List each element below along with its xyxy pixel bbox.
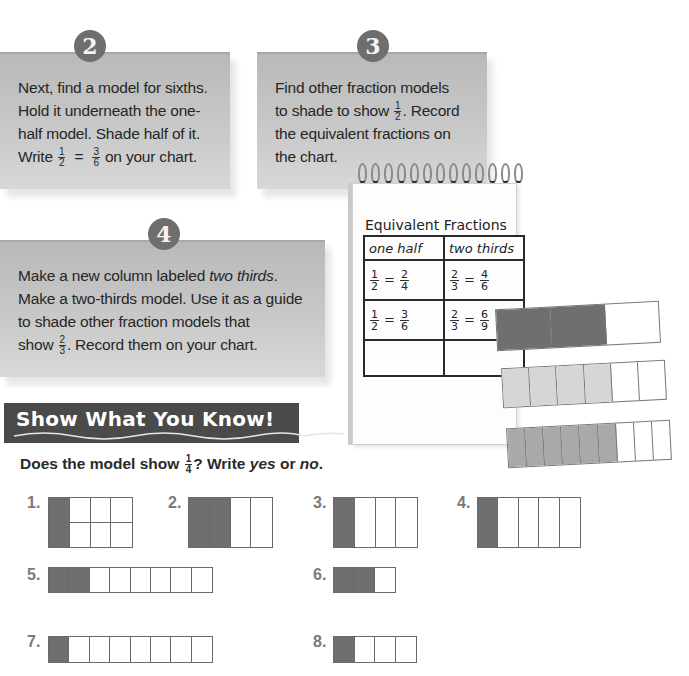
fraction: 46 — [480, 269, 489, 292]
model-cell-shaded — [49, 523, 70, 548]
fraction-three-sixths: 36 — [92, 147, 99, 168]
denominator: 3 — [60, 346, 65, 356]
question-7-model — [48, 636, 213, 663]
model-cell-shaded — [69, 568, 89, 592]
step-3-line-2: to shade to show 12. Record — [275, 99, 477, 122]
fraction: 12 — [370, 269, 379, 292]
table-row: 12=24 23=46 — [364, 260, 524, 300]
step-3-line-1: Find other fraction models — [275, 76, 477, 99]
strip-cell-shaded — [525, 427, 545, 466]
strip-cell-shaded — [543, 426, 563, 465]
ring — [449, 163, 458, 183]
italic-text: two thirds — [209, 267, 273, 284]
text: . Record — [402, 102, 459, 119]
model-cell-shaded — [334, 568, 354, 592]
question-2-label: 2. — [168, 494, 181, 512]
text: ? Write — [193, 455, 250, 472]
text: to shade to show — [275, 102, 389, 119]
question-4-label: 4. — [457, 494, 470, 512]
model-cell-shaded — [354, 568, 374, 592]
model-cell — [110, 637, 130, 662]
question-8-label: 8. — [313, 633, 326, 651]
denominator: 3 — [451, 321, 458, 332]
question-2-model — [188, 497, 273, 548]
model-cell — [91, 523, 112, 548]
strip-cell-shaded — [496, 307, 552, 350]
denominator: 6 — [401, 321, 408, 332]
text: . Record them on your chart. — [67, 336, 258, 353]
strip-cell — [652, 421, 671, 460]
question-1-model — [48, 497, 133, 548]
strip-cell — [634, 422, 654, 461]
strip-cell-shaded — [502, 368, 531, 407]
step-4-badge: 4 — [148, 218, 180, 250]
ring — [475, 163, 484, 183]
question-3-model — [333, 497, 418, 548]
model-cell — [539, 498, 559, 547]
numerator: 2 — [450, 309, 459, 321]
model-cell — [498, 498, 518, 547]
header-one-half: one half — [364, 236, 444, 260]
model-cell — [91, 498, 112, 523]
model-thirds — [495, 301, 661, 352]
strip-cell-shaded — [556, 365, 585, 404]
model-cell — [355, 498, 376, 547]
model-cell — [151, 637, 171, 662]
model-cell — [519, 498, 539, 547]
ring — [423, 163, 432, 183]
ring — [488, 163, 497, 183]
table-header-row: one half two thirds — [364, 236, 524, 260]
equals-sign: = — [464, 272, 475, 287]
equals-sign: = — [464, 312, 475, 327]
text: or — [276, 455, 300, 472]
model-cell-shaded — [334, 637, 355, 662]
equals-sign: = — [74, 148, 83, 165]
model-cell — [560, 498, 580, 547]
strip-cell-shaded — [561, 425, 581, 464]
step-3-text: Find other fraction models to shade to s… — [275, 76, 477, 168]
model-cell — [69, 637, 89, 662]
model-cell — [171, 568, 191, 592]
model-cell-shaded — [49, 637, 69, 662]
italic-no: no — [300, 455, 319, 472]
step-3-line-3: the equivalent fractions on — [275, 122, 477, 145]
step-3-badge: 3 — [357, 30, 389, 62]
strip-cell-shaded — [598, 424, 618, 463]
denominator: 2 — [59, 158, 64, 168]
step-2-line-2: Hold it underneath the one- — [18, 99, 220, 122]
text: Write — [18, 148, 53, 165]
question-5-model — [48, 567, 213, 593]
step-2-text: Next, find a model for sixths. Hold it u… — [18, 76, 220, 168]
fraction: 23 — [450, 269, 459, 292]
table-cell: 12=24 — [364, 260, 444, 300]
ring — [436, 163, 445, 183]
table-cell: 12=36 — [364, 300, 444, 340]
model-cell — [110, 568, 130, 592]
model-cell — [375, 637, 396, 662]
italic-yes: yes — [250, 455, 276, 472]
strip-cell-shaded — [529, 366, 558, 405]
text: Does the model show — [20, 455, 179, 472]
fraction: 24 — [400, 269, 409, 292]
ring — [514, 163, 523, 183]
strip-cell — [638, 361, 666, 400]
step-2-card: Next, find a model for sixths. Hold it u… — [0, 52, 230, 189]
fraction: 12 — [370, 309, 379, 332]
fraction-two-thirds: 23 — [59, 335, 66, 356]
fraction-one-half: 12 — [58, 147, 65, 168]
numerator: 2 — [450, 269, 459, 281]
model-cell — [111, 498, 132, 523]
equals-sign: = — [384, 312, 395, 327]
denominator: 2 — [371, 321, 378, 332]
model-cell — [251, 498, 272, 547]
model-cell — [70, 523, 91, 548]
model-cell — [355, 637, 376, 662]
denominator: 3 — [451, 281, 458, 292]
numerator: 1 — [370, 269, 379, 281]
model-cell — [90, 568, 110, 592]
step-4-line-2: Make a two-thirds model. Use it as a gui… — [18, 287, 315, 310]
ring — [384, 163, 393, 183]
fraction: 69 — [480, 309, 489, 332]
denominator: 9 — [481, 321, 488, 332]
model-cell-shaded — [210, 498, 231, 547]
